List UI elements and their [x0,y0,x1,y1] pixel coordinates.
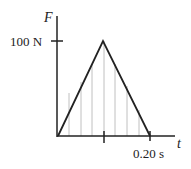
y-axis-label: F [43,10,53,25]
force-time-graph: F 100 N 0.20 s t [0,0,191,169]
x-tick-label: 0.20 s [133,146,164,161]
x-axis-label: t [177,136,182,151]
y-tick-label: 100 N [10,34,43,49]
area-hatching [69,41,139,136]
